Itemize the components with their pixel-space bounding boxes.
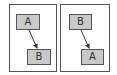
- left-edge-arrow: [29, 30, 37, 48]
- right-edge-arrow: [81, 30, 89, 48]
- edge-layer: [0, 0, 117, 75]
